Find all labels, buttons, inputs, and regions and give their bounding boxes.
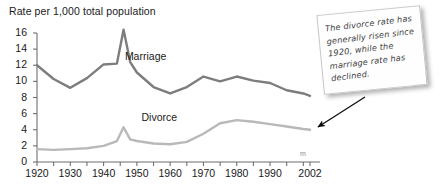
x-axis-tick-label: 1990: [250, 167, 290, 179]
note-curled-corner-icon: [413, 72, 427, 86]
y-axis-tick-label: 2: [5, 139, 27, 151]
axis-end-glyph: m: [300, 150, 306, 157]
x-axis-tick-label: 2002: [290, 167, 330, 179]
chart-figure: Rate per 1,000 total population 02468101…: [0, 0, 445, 192]
y-axis-tick-label: 0: [5, 155, 27, 167]
y-axis-tick-label: 8: [5, 91, 27, 103]
series-label-divorce: Divorce: [142, 111, 178, 123]
series-line-divorce: [37, 120, 310, 150]
data-series: [37, 30, 310, 150]
y-tick-marks: [33, 33, 37, 162]
y-axis-tick-label: 6: [5, 107, 27, 119]
annotation-sticky-note: The divorce rate has generally risen sin…: [316, 5, 427, 95]
y-axis-tick-label: 16: [5, 26, 27, 38]
y-axis-tick-label: 14: [5, 42, 27, 54]
y-axis-tick-label: 10: [5, 74, 27, 86]
series-label-marriage: Marriage: [125, 50, 166, 62]
series-line-marriage: [37, 30, 310, 96]
annotation-arrow: [318, 97, 365, 127]
annotation-note-text: The divorce rate has generally risen sin…: [324, 11, 423, 85]
x-tick-marks: [37, 162, 310, 166]
y-axis-tick-label: 4: [5, 123, 27, 135]
y-axis-tick-label: 12: [5, 58, 27, 70]
